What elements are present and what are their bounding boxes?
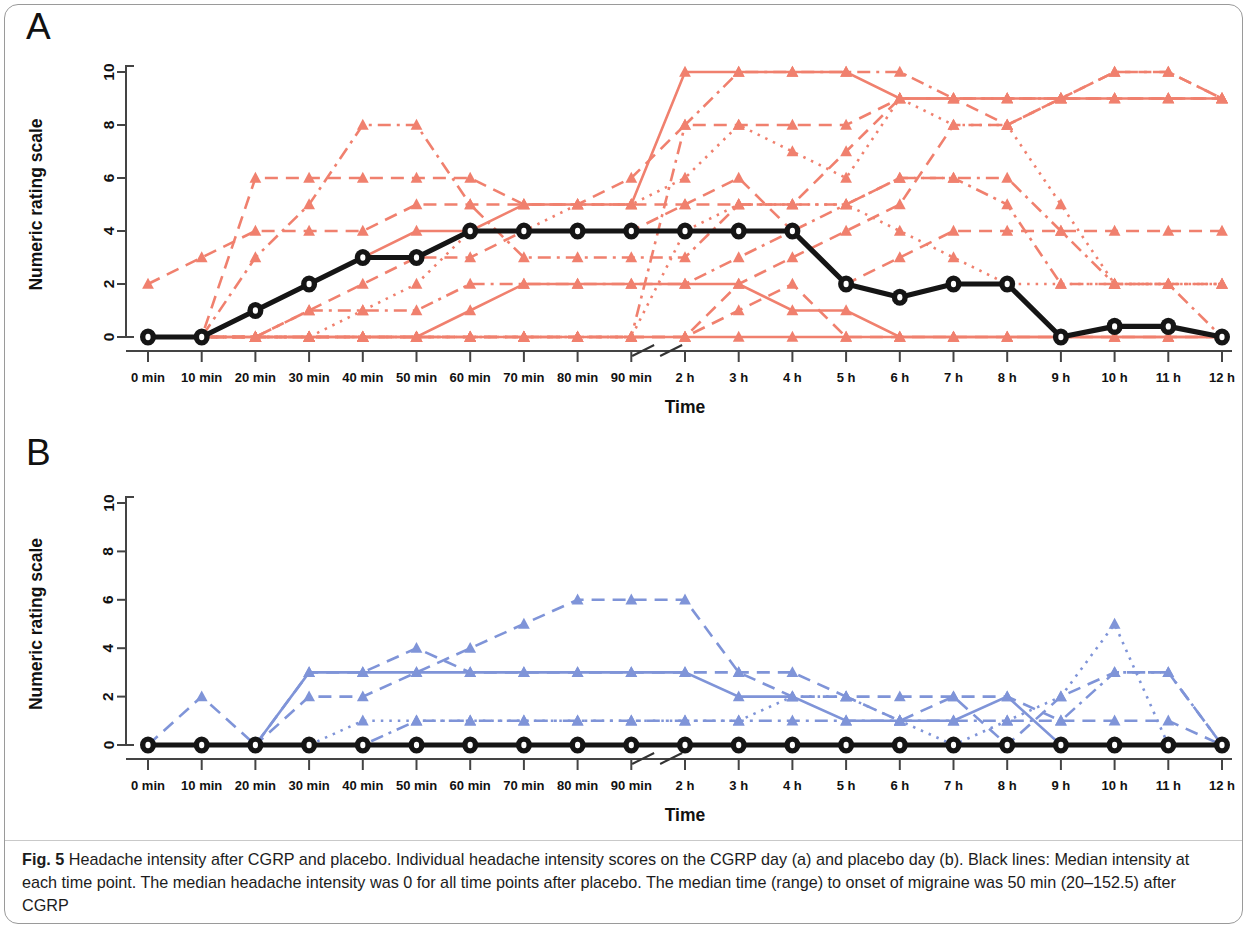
svg-text:10 h: 10 h [1102,778,1128,793]
svg-text:40 min: 40 min [342,370,383,385]
svg-text:4: 4 [100,226,117,235]
svg-text:8 h: 8 h [998,778,1017,793]
svg-text:0: 0 [100,333,117,342]
svg-text:7 h: 7 h [944,370,963,385]
svg-text:2: 2 [100,280,117,289]
svg-text:10 min: 10 min [181,370,222,385]
svg-text:2 h: 2 h [676,778,695,793]
svg-text:30 min: 30 min [289,778,330,793]
svg-text:10 h: 10 h [1102,370,1128,385]
caption-body: Headache intensity after CGRP and placeb… [22,850,1189,914]
caption-divider [5,840,1242,841]
svg-text:9 h: 9 h [1052,370,1071,385]
svg-text:80 min: 80 min [557,778,598,793]
svg-text:10: 10 [100,494,117,511]
svg-text:10: 10 [100,63,117,80]
svg-text:12 h: 12 h [1209,370,1235,385]
svg-text:8: 8 [100,120,117,129]
svg-text:2 h: 2 h [676,370,695,385]
figure-caption: Fig. 5 Headache intensity after CGRP and… [22,848,1222,917]
svg-text:0 min: 0 min [131,778,165,793]
svg-text:Time: Time [665,397,706,417]
panel-a-chart: 0246810Numeric rating scale0 min10 min20… [0,0,1247,428]
svg-text:6 h: 6 h [890,778,909,793]
svg-text:10 min: 10 min [181,778,222,793]
svg-text:0 min: 0 min [131,370,165,385]
svg-text:60 min: 60 min [450,370,491,385]
svg-text:Time: Time [665,805,706,825]
svg-text:6: 6 [100,595,117,604]
svg-text:12 h: 12 h [1209,778,1235,793]
svg-text:90 min: 90 min [611,778,652,793]
svg-text:70 min: 70 min [503,370,544,385]
svg-text:20 min: 20 min [235,778,276,793]
svg-text:8 h: 8 h [998,370,1017,385]
svg-text:7 h: 7 h [944,778,963,793]
svg-text:11 h: 11 h [1156,370,1181,385]
svg-text:6: 6 [100,173,117,182]
caption-figure-number: Fig. 5 [22,850,64,868]
svg-text:90 min: 90 min [611,370,652,385]
svg-text:4 h: 4 h [783,370,802,385]
svg-text:4 h: 4 h [783,778,802,793]
svg-text:40 min: 40 min [342,778,383,793]
svg-text:20 min: 20 min [235,370,276,385]
figure-root: A B 0246810Numeric rating scale0 min10 m… [0,0,1247,928]
svg-text:8: 8 [100,547,117,556]
svg-text:80 min: 80 min [557,370,598,385]
svg-text:5 h: 5 h [837,778,856,793]
panel-b-chart: 0246810Numeric rating scale0 min10 min20… [0,428,1247,840]
svg-text:60 min: 60 min [450,778,491,793]
svg-text:50 min: 50 min [396,370,437,385]
svg-text:3 h: 3 h [729,370,748,385]
svg-text:70 min: 70 min [503,778,544,793]
svg-text:30 min: 30 min [289,370,330,385]
svg-text:11 h: 11 h [1156,778,1181,793]
svg-text:9 h: 9 h [1052,778,1071,793]
svg-text:4: 4 [100,644,117,653]
svg-text:Numeric rating scale: Numeric rating scale [26,538,46,710]
svg-text:3 h: 3 h [729,778,748,793]
svg-text:6 h: 6 h [890,370,909,385]
svg-text:0: 0 [100,741,117,750]
svg-text:Numeric rating scale: Numeric rating scale [26,118,46,290]
svg-text:50 min: 50 min [396,778,437,793]
svg-text:5 h: 5 h [837,370,856,385]
svg-text:2: 2 [100,692,117,701]
